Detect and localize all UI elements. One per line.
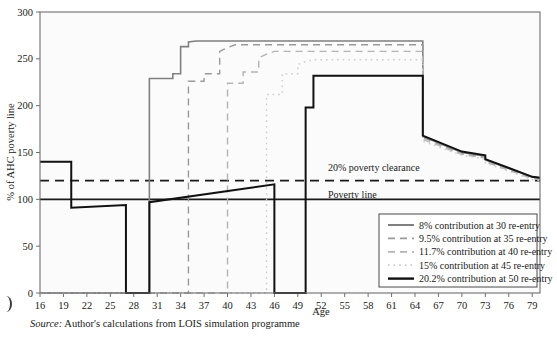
- legend-label-2: 9.5% contribution at 35 re-entry: [419, 233, 548, 244]
- legend-label-5: 20.2% contribution at 50 re-entry: [419, 273, 553, 284]
- x-tick-label: 16: [35, 300, 46, 311]
- x-tick-label: 67: [433, 300, 444, 311]
- x-tick-label: 55: [339, 300, 350, 311]
- x-tick-label: 43: [246, 300, 257, 311]
- x-axis-ticks: 1619222528313437404346495255586164677073…: [35, 293, 538, 311]
- x-tick-label: 70: [457, 300, 468, 311]
- chart-svg: 050100150200250300 161922252831343740434…: [0, 0, 557, 340]
- source-prefix: Source:: [30, 318, 62, 329]
- source-text: Author's calculations from LOIS simulati…: [64, 318, 299, 329]
- x-tick-label: 46: [269, 300, 280, 311]
- x-tick-label: 37: [199, 300, 210, 311]
- y-tick-label: 150: [17, 147, 33, 158]
- x-tick-label: 22: [82, 300, 93, 311]
- chart-legend: 8% contribution at 30 re-entry9.5% contr…: [379, 214, 553, 287]
- x-tick-label: 58: [363, 300, 374, 311]
- x-tick-label: 64: [410, 300, 421, 311]
- y-tick-label: 0: [28, 288, 33, 299]
- legend-label-4: 15% contribution at 45 re-entry: [419, 260, 545, 271]
- legend-label-3: 11.7% contribution at 40 re-entry: [419, 246, 552, 257]
- x-tick-label: 61: [386, 300, 397, 311]
- y-tick-label: 250: [17, 53, 33, 64]
- source-note: Source: Author's calculations from LOIS …: [30, 318, 300, 329]
- x-tick-label: 19: [58, 300, 69, 311]
- x-axis-title: Age: [312, 306, 330, 317]
- y-tick-label: 300: [17, 7, 33, 18]
- page-corner-mark: [0, 296, 12, 312]
- y-tick-label: 50: [23, 241, 34, 252]
- x-tick-label: 31: [152, 300, 163, 311]
- x-tick-label: 79: [527, 300, 538, 311]
- chart-figure: 050100150200250300 161922252831343740434…: [0, 0, 557, 340]
- x-tick-label: 34: [175, 300, 186, 311]
- y-axis-ticks: 050100150200250300: [17, 7, 40, 299]
- x-tick-label: 25: [105, 300, 116, 311]
- annotation-poverty-clearance: 20% poverty clearance: [328, 162, 420, 173]
- x-tick-label: 49: [293, 300, 304, 311]
- y-tick-label: 100: [17, 194, 33, 205]
- x-tick-label: 40: [222, 300, 233, 311]
- y-axis-title: % of AHC poverty line: [5, 103, 16, 201]
- x-tick-label: 73: [480, 300, 491, 311]
- x-tick-label: 76: [504, 300, 515, 311]
- legend-label-1: 8% contribution at 30 re-entry: [419, 220, 540, 231]
- y-tick-label: 200: [17, 100, 33, 111]
- annotation-poverty-line: Poverty line: [328, 189, 377, 200]
- x-tick-label: 28: [129, 300, 140, 311]
